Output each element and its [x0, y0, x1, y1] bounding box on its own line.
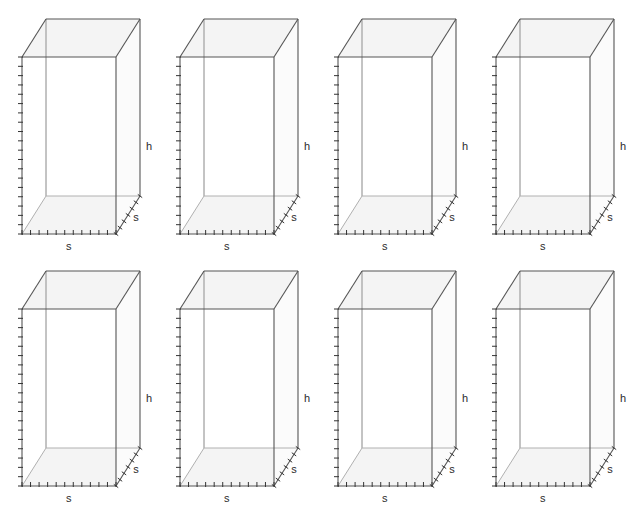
- label-height: h: [462, 392, 468, 404]
- prism-figure: hss: [316, 0, 474, 252]
- label-side-width: s: [224, 240, 230, 252]
- prism-figure: hss: [474, 252, 632, 504]
- prism-figure: hss: [0, 0, 158, 252]
- label-height: h: [304, 140, 310, 152]
- label-side-width: s: [66, 240, 72, 252]
- label-side-depth: s: [449, 463, 455, 475]
- prism-grid: hsshsshsshsshsshsshsshss: [0, 0, 632, 505]
- label-side-depth: s: [449, 211, 455, 223]
- label-height: h: [146, 392, 152, 404]
- label-side-width: s: [540, 240, 546, 252]
- label-side-width: s: [382, 492, 388, 504]
- label-side-depth: s: [291, 463, 297, 475]
- label-side-depth: s: [291, 211, 297, 223]
- label-side-depth: s: [133, 211, 139, 223]
- prism-figure: hss: [158, 0, 316, 252]
- label-height: h: [620, 392, 626, 404]
- label-side-depth: s: [133, 463, 139, 475]
- label-height: h: [304, 392, 310, 404]
- label-side-width: s: [540, 492, 546, 504]
- prism-figure: hss: [158, 252, 316, 504]
- prism-figure: hss: [474, 0, 632, 252]
- label-height: h: [146, 140, 152, 152]
- label-height: h: [620, 140, 626, 152]
- prism-figure: hss: [0, 252, 158, 504]
- worksheet-canvas: hsshsshsshsshsshsshsshss: [0, 0, 632, 505]
- label-side-width: s: [224, 492, 230, 504]
- label-side-depth: s: [607, 211, 613, 223]
- label-height: h: [462, 140, 468, 152]
- label-side-width: s: [382, 240, 388, 252]
- label-side-width: s: [66, 492, 72, 504]
- prism-figure: hss: [316, 252, 474, 504]
- label-side-depth: s: [607, 463, 613, 475]
